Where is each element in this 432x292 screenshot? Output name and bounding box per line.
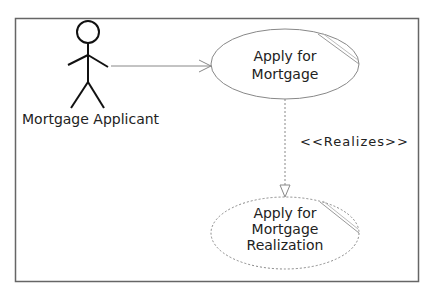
use-case-2-line-2: Mortgage: [220, 221, 350, 237]
actor-stick-figure-icon[interactable]: [68, 21, 108, 108]
association-arrow[interactable]: [111, 60, 211, 72]
stereotype-label: <<Realizes>>: [300, 134, 400, 150]
realization-arrow[interactable]: [280, 99, 290, 197]
use-case-2-label: Apply for Mortgage Realization: [220, 205, 350, 253]
use-case-2-line-3: Realization: [220, 237, 350, 253]
actor-label: Mortgage Applicant: [22, 111, 154, 127]
use-case-1-label: Apply for Mortgage: [220, 47, 350, 83]
use-case-1-line-1: Apply for: [220, 47, 350, 65]
use-case-2-line-1: Apply for: [220, 205, 350, 221]
use-case-1-line-2: Mortgage: [220, 65, 350, 83]
